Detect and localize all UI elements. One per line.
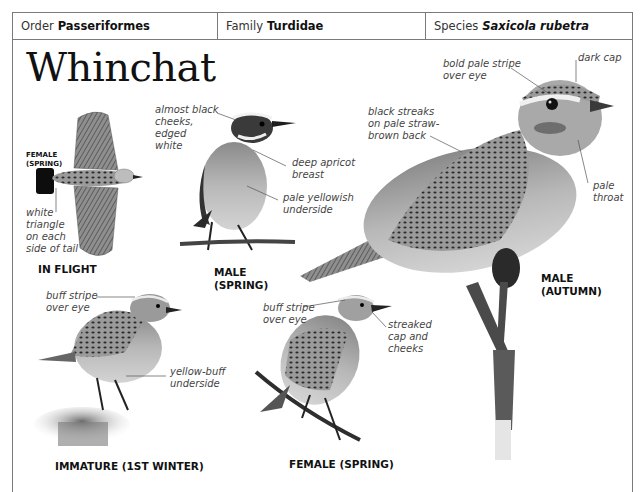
immature-note-stripe: buff stripe over eye (46, 290, 98, 314)
male-autumn-bird (300, 80, 614, 460)
male-spring-caption: MALE (SPRING) (214, 266, 268, 292)
male-autumn-note-throat: pale throat (593, 180, 624, 204)
male-autumn-note-back: black streaks on pale straw- brown back (368, 106, 439, 142)
female-spring-note-stripe: buff stripe over eye (263, 302, 315, 326)
female-spring-note-cheeks: streaked cap and cheeks (388, 319, 432, 355)
immature-note-underside: yellow-buff underside (170, 366, 225, 390)
male-autumn-caption: MALE (AUTUMN) (541, 272, 602, 298)
male-spring-note-breast: deep apricot breast (292, 157, 355, 181)
male-spring-note-underside: pale yellowish underside (283, 192, 354, 216)
male-spring-note-cheeks: almost black cheeks, edged white (155, 104, 219, 152)
in-flight-caption: IN FLIGHT (38, 263, 97, 276)
in-flight-note-tail: white triangle on each side of tail (26, 207, 78, 255)
male-autumn-note-cap: dark cap (578, 52, 622, 64)
immature-bird (34, 294, 182, 446)
immature-caption: IMMATURE (1ST WINTER) (55, 460, 204, 473)
female-spring-caption: FEMALE (SPRING) (289, 458, 394, 471)
male-autumn-note-stripe: bold pale stripe over eye (443, 58, 521, 82)
in-flight-subcaption: FEMALE (SPRING) (26, 151, 62, 169)
